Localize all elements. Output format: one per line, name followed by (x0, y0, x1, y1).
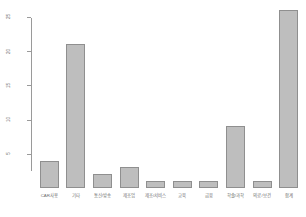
x-tick-label: 제조업 (116, 193, 143, 199)
bar[interactable] (66, 44, 85, 188)
x-axis-labels: CAR사용기타통신/방송제조업제조/서비스교육금융학술/과학의료/보건합계 (36, 193, 302, 207)
bar[interactable] (173, 181, 192, 188)
x-tick-label: 금융 (196, 193, 223, 199)
x-tick-label: 통신/방송 (89, 193, 116, 199)
bar[interactable] (93, 174, 112, 188)
y-tick-mark (27, 85, 31, 86)
x-tick-label: 제조/서비스 (142, 193, 169, 199)
bar[interactable] (253, 181, 272, 188)
y-tick-label: 25 (6, 8, 11, 26)
bar[interactable] (279, 10, 298, 188)
x-tick-label: 학술/과학 (222, 193, 249, 199)
y-tick-label: 10 (6, 111, 11, 129)
bar-chart: CAR사용기타통신/방송제조업제조/서비스교육금융학술/과학의료/보건합계 51… (0, 0, 306, 217)
y-tick-label: 15 (6, 76, 11, 94)
bar[interactable] (120, 167, 139, 188)
bar[interactable] (40, 161, 59, 188)
x-tick-label: 의료/보건 (249, 193, 276, 199)
y-tick-label: 5 (6, 145, 11, 163)
x-tick-label: 합계 (275, 193, 302, 199)
bar[interactable] (199, 181, 218, 188)
x-tick-label: CAR사용 (36, 193, 63, 199)
bar[interactable] (226, 126, 245, 188)
y-tick-mark (27, 154, 31, 155)
y-tick-mark (27, 17, 31, 18)
y-tick-mark (27, 51, 31, 52)
bars-group (36, 10, 302, 188)
x-tick-label: 교육 (169, 193, 196, 199)
y-axis-line (31, 18, 32, 171)
bar[interactable] (146, 181, 165, 188)
x-tick-label: 기타 (63, 193, 90, 199)
y-tick-label: 20 (6, 42, 11, 60)
y-tick-mark (27, 120, 31, 121)
